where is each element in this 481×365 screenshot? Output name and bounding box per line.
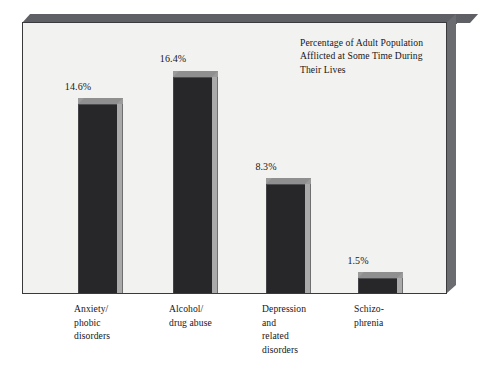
chart-title: Percentage of Adult Population Afflicted… [300, 36, 450, 76]
category-label-3-line-2: and [262, 316, 354, 330]
category-label-3: Depression and related disorders [262, 302, 354, 356]
category-label-3-line-4: disorders [262, 343, 354, 357]
bar-chart-figure: Percentage of Adult Population Afflicted… [0, 0, 481, 365]
bar-1[interactable] [78, 98, 123, 293]
bar-2[interactable] [173, 71, 218, 293]
category-label-2-line-1: Alcohol/ [169, 302, 261, 316]
chart-title-line-3: Their Lives [300, 63, 450, 76]
bar-4-side-face [397, 278, 403, 293]
category-label-1-line-1: Anxiety/ [74, 302, 166, 316]
category-label-3-line-3: related [262, 329, 354, 343]
bar-3-front-face [266, 184, 305, 293]
category-label-4-line-2: phrenia [354, 316, 446, 330]
bar-value-label-2: 16.4% [143, 53, 203, 64]
category-label-1-line-3: disorders [74, 329, 166, 343]
chart-title-line-2: Afflicted at Some Time During [300, 49, 450, 62]
bar-value-label-4: 1.5% [328, 255, 388, 266]
bar-3[interactable] [266, 178, 311, 293]
category-label-3-line-1: Depression [262, 302, 354, 316]
bar-2-front-face [173, 77, 212, 293]
category-label-2: Alcohol/ drug abuse [169, 302, 261, 329]
bar-3-side-face [305, 184, 311, 293]
category-label-2-line-2: drug abuse [169, 316, 261, 330]
bar-4[interactable] [358, 272, 403, 293]
category-label-1: Anxiety/ phobic disorders [74, 302, 166, 343]
bar-2-side-face [212, 77, 218, 293]
category-label-4: Schizo- phrenia [354, 302, 446, 329]
bar-4-front-face [358, 278, 397, 293]
category-label-1-line-2: phobic [74, 316, 166, 330]
chart-title-line-1: Percentage of Adult Population [300, 36, 450, 49]
bar-value-label-1: 14.6% [48, 81, 108, 92]
bar-1-side-face [117, 104, 123, 293]
bar-value-label-3: 8.3% [236, 161, 296, 172]
bar-1-front-face [78, 104, 117, 293]
category-label-4-line-1: Schizo- [354, 302, 446, 316]
